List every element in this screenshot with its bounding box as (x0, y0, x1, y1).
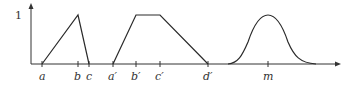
label-b: b (74, 70, 81, 83)
label-b-prime: b′ (131, 70, 141, 83)
label-a: a (39, 70, 46, 83)
gaussian-function (228, 15, 316, 64)
x-axis-arrow-icon (335, 62, 341, 67)
label-c: c (86, 70, 92, 83)
label-a-prime: a′ (108, 70, 118, 83)
triangular-function (42, 15, 89, 64)
membership-functions-diagram: 1 a b c a′ b′ c′ d′ m (0, 0, 348, 88)
y-label-one: 1 (15, 9, 22, 22)
trapezoidal-function (113, 15, 208, 64)
y-axis-arrow-icon (29, 3, 34, 9)
label-m: m (263, 70, 273, 83)
label-d-prime: d′ (203, 70, 213, 83)
label-c-prime: c′ (155, 70, 164, 83)
diagram-canvas: 1 a b c a′ b′ c′ d′ m (0, 0, 348, 88)
